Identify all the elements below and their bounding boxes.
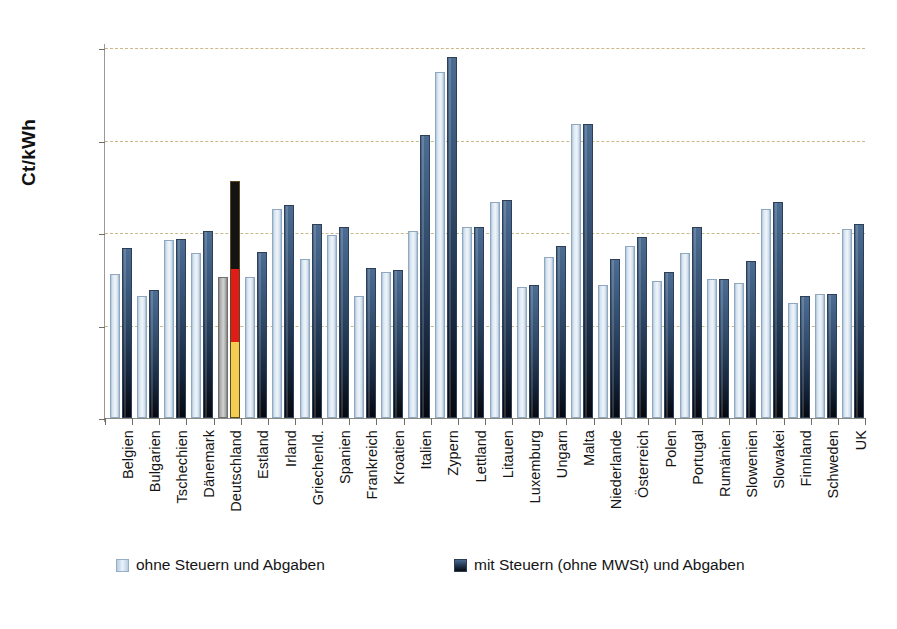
bar-mit-steuern xyxy=(800,296,810,418)
legend-item-mit-steuern: mit Steuern (ohne MWSt) und Abgaben xyxy=(454,556,745,574)
bar-group xyxy=(734,48,761,418)
bar-ohne-steuern xyxy=(435,72,445,418)
bar-mit-steuern xyxy=(637,237,647,418)
x-axis-label-litauen: Litauen xyxy=(500,430,516,478)
x-axis-label-tschechien: Tschechien xyxy=(174,430,190,504)
bar-ohne-steuern xyxy=(815,294,825,418)
bar-group xyxy=(300,48,327,418)
bar-ohne-steuern xyxy=(191,253,201,418)
x-tick-mark xyxy=(811,418,812,425)
bar-ohne-steuern xyxy=(164,240,174,418)
bar-mit-steuern xyxy=(664,272,674,418)
bar-ohne-steuern xyxy=(490,202,500,418)
bar-group xyxy=(245,48,272,418)
x-axis-label-estland: Estland xyxy=(255,430,271,479)
bar-mit-steuern xyxy=(692,227,702,418)
x-axis-label-rum-nien: Rumänien xyxy=(717,430,733,497)
bar-group xyxy=(544,48,571,418)
x-axis-label-slowenien: Slowenien xyxy=(744,430,760,498)
bar-mit-steuern xyxy=(366,268,376,418)
x-tick-mark xyxy=(784,418,785,425)
x-axis-label-finnland: Finnland xyxy=(798,430,814,486)
bar-group xyxy=(408,48,435,418)
bar-group xyxy=(517,48,544,418)
x-axis-label-deutschland: Deutschland xyxy=(228,430,244,512)
x-axis-label-zypern: Zypern xyxy=(445,430,461,476)
x-tick-mark xyxy=(675,418,676,425)
x-tick-mark xyxy=(838,418,839,425)
x-axis-label-kroatien: Kroatien xyxy=(391,430,407,485)
bar-group xyxy=(598,48,625,418)
bar-group xyxy=(272,48,299,418)
bar-mit-steuern xyxy=(393,270,403,418)
bar-ohne-steuern xyxy=(571,124,581,418)
x-axis-label-schweden: Schweden xyxy=(825,430,841,499)
bar-ohne-steuern xyxy=(761,209,771,418)
x-axis-label-belgien: Belgien xyxy=(120,430,136,479)
bar-ohne-steuern xyxy=(842,229,852,418)
y-axis-title: Ct/kWh xyxy=(18,119,40,186)
x-tick-mark xyxy=(295,418,296,425)
bar-mit-steuern xyxy=(284,205,294,418)
bar-mit-steuern xyxy=(203,231,213,418)
bar-mit-steuern xyxy=(583,124,593,418)
bar-mit-steuern xyxy=(474,227,484,418)
x-axis-label-bulgarien: Bulgarien xyxy=(147,430,163,492)
bar-ohne-steuern xyxy=(408,231,418,418)
x-axis-label-lettland: Lettland xyxy=(473,430,489,482)
x-tick-mark xyxy=(865,418,866,425)
bar-ohne-steuern xyxy=(462,227,472,418)
bar-group xyxy=(680,48,707,418)
bar-ohne-steuern xyxy=(272,209,282,418)
bar-group xyxy=(788,48,815,418)
bar-ohne-steuern xyxy=(137,296,147,418)
legend-item-ohne-steuern: ohne Steuern und Abgaben xyxy=(116,556,325,574)
bar-group xyxy=(110,48,137,418)
bar-ohne-steuern xyxy=(652,281,662,418)
bar-ohne-steuern xyxy=(218,277,228,418)
bar-ohne-steuern xyxy=(544,257,554,418)
bar-ohne-steuern xyxy=(680,253,690,418)
legend-label-mit-steuern: mit Steuern (ohne MWSt) und Abgaben xyxy=(474,556,745,574)
bar-group xyxy=(354,48,381,418)
bar-mit-steuern xyxy=(122,248,132,418)
bar-group xyxy=(327,48,354,418)
x-tick-mark xyxy=(376,418,377,425)
bar-mit-steuern xyxy=(719,279,729,418)
bar-ohne-steuern xyxy=(625,246,635,418)
bar-mit-steuern xyxy=(854,224,864,418)
chart-figure: Ct/kWh BelgienBulgarienTschechienDänemar… xyxy=(0,0,897,629)
bar-mit-steuern xyxy=(610,259,620,418)
bar-group xyxy=(815,48,842,418)
bar-mit-steuern xyxy=(556,246,566,418)
bar-group xyxy=(571,48,598,418)
x-tick-mark xyxy=(648,418,649,425)
x-axis-label-slowakei: Slowakei xyxy=(771,430,787,489)
bar-mit-steuern xyxy=(420,135,430,418)
x-tick-mark xyxy=(159,418,160,425)
bar-group xyxy=(490,48,517,418)
x-axis-label-uk: UK xyxy=(853,430,869,450)
x-tick-mark xyxy=(322,418,323,425)
bar-mit-steuern xyxy=(176,239,186,418)
bar-mit-steuern xyxy=(149,290,159,418)
x-tick-mark xyxy=(621,418,622,425)
bar-ohne-steuern xyxy=(788,303,798,418)
x-tick-mark xyxy=(214,418,215,425)
figure-caption xyxy=(36,612,866,629)
x-axis-label-d-nemark: Dänemark xyxy=(201,430,217,498)
x-tick-mark xyxy=(404,418,405,425)
bar-ohne-steuern xyxy=(734,283,744,418)
bar-mit-steuern xyxy=(746,261,756,418)
x-axis-label-portugal: Portugal xyxy=(690,430,706,485)
bar-mit-steuern xyxy=(502,200,512,418)
x-tick-mark xyxy=(702,418,703,425)
x-tick-mark xyxy=(105,418,106,425)
bar-mit-steuern xyxy=(339,227,349,418)
x-axis-label-polen: Polen xyxy=(663,430,679,468)
x-axis-label-irland: Irland xyxy=(283,430,299,467)
bar-mit-steuern xyxy=(257,252,267,419)
x-tick-mark xyxy=(431,418,432,425)
bar-mit-steuern xyxy=(447,57,457,418)
x-tick-mark xyxy=(729,418,730,425)
